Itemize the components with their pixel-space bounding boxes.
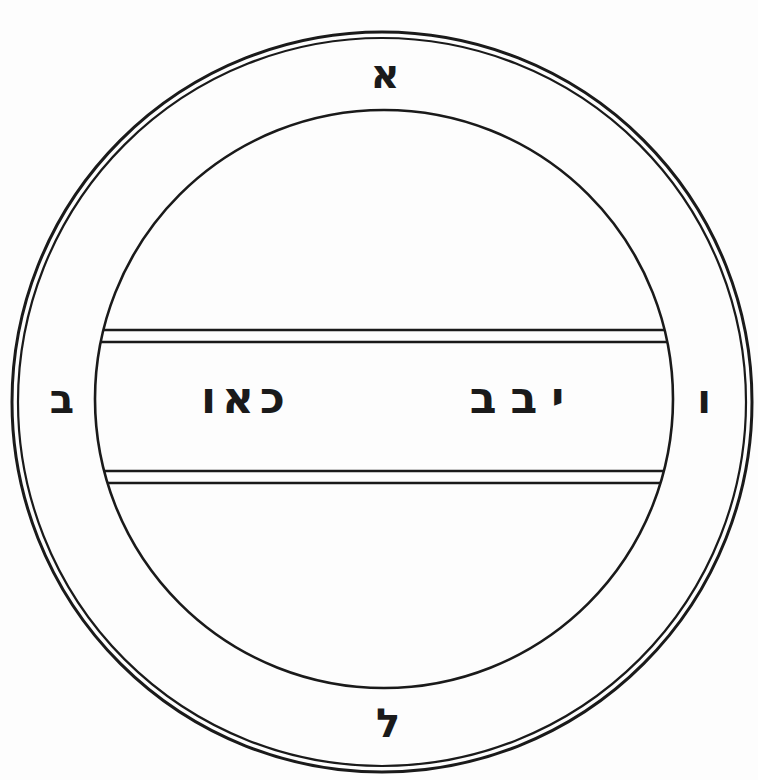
seal-drawing: א ב ו ל כאו יבב bbox=[0, 0, 758, 780]
ring-letter-bottom: ל bbox=[376, 700, 400, 746]
ring-letter-left: ב bbox=[50, 376, 74, 422]
inner-circle bbox=[95, 110, 673, 688]
ring-letter-top: א bbox=[370, 51, 399, 97]
band-word-left: כאו bbox=[201, 372, 291, 423]
outer-ring bbox=[12, 32, 752, 772]
band-word-right: יבב bbox=[470, 372, 579, 423]
middle-band bbox=[80, 330, 690, 483]
seal-diagram: א ב ו ל כאו יבב bbox=[0, 0, 758, 780]
ring-letter-right: ו bbox=[697, 376, 711, 422]
